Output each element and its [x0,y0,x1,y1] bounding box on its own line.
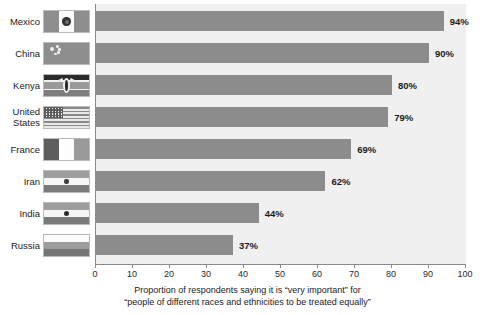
bar [96,43,429,63]
bar-value-label: 37% [239,235,258,255]
flag-star [61,111,62,112]
bar-row: Iran62% [0,165,495,197]
x-axis-tick [280,264,281,268]
bar-chart: Mexico94%China90%Kenya80%UnitedStates79%… [0,0,495,315]
x-axis-tick [354,264,355,268]
flag-star [46,111,47,112]
x-axis-tick [206,264,207,268]
x-axis-tick-label: 10 [127,269,137,279]
x-axis-tick-label: 60 [312,269,322,279]
flag-stripe [44,249,89,256]
flag-emblem [64,179,68,183]
flag-emblem [57,51,59,53]
bar-value-label: 62% [331,171,350,191]
x-axis-tick [391,264,392,268]
category-label: France [0,133,40,165]
category-label-line-1: China [15,48,40,59]
flag-star [55,116,56,117]
flag-star [52,108,53,109]
x-axis-tick [95,264,96,268]
category-label-line-1: India [19,208,40,219]
bar [96,171,325,191]
flag-stripe [44,139,59,160]
x-axis-tick [243,264,244,268]
bar [96,75,392,95]
bar-value-label: 90% [435,43,454,63]
x-axis-tick-label: 20 [164,269,174,279]
bar-row: Russia37% [0,229,495,261]
x-axis-tick-label: 70 [349,269,359,279]
bar-row: UnitedStates79% [0,101,495,133]
flag-emblem [58,48,60,50]
flag-star [52,113,53,114]
bar-value-label: 80% [398,75,417,95]
flag-star [46,116,47,117]
flag-star [49,111,50,112]
flag-stripe [74,11,89,32]
flag-star [46,113,47,114]
category-label: India [0,197,40,229]
x-axis-tick [428,264,429,268]
x-axis-caption-line-2: “people of different races and ethniciti… [0,296,495,308]
flag-emblem [65,20,69,24]
flag-stripe [44,11,59,32]
flag-mexico-icon [43,10,90,33]
x-axis-caption-line-1: Proportion of respondents saying it is “… [0,284,495,296]
bar-row: France69% [0,133,495,165]
category-label-line-1: France [10,144,40,155]
flag-star [52,111,53,112]
bar [96,235,233,255]
x-axis-tick-label: 50 [275,269,285,279]
x-axis-tick-label: 40 [238,269,248,279]
category-label: Kenya [0,69,40,101]
flag-star [55,108,56,109]
x-axis-tick-label: 80 [386,269,396,279]
category-label: Mexico [0,5,40,37]
bar [96,139,351,159]
x-axis-tick-label: 100 [457,269,472,279]
category-label: China [0,37,40,69]
flag-stripe [44,217,89,224]
x-axis-tick [465,264,466,268]
x-axis-caption: Proportion of respondents saying it is “… [0,284,495,308]
flag-star [55,111,56,112]
flag-stripe [44,235,89,242]
flag-stripe [74,139,89,160]
bar-row: Mexico94% [0,5,495,37]
flag-russia-icon [43,234,90,257]
flag-stripe [59,139,74,160]
x-axis-tick [132,264,133,268]
flag-star [58,108,59,109]
category-label: UnitedStates [0,101,40,133]
flag-stripe [44,185,89,192]
category-label-line-1: Kenya [13,80,40,91]
x-axis-tick-label: 0 [92,269,97,279]
x-axis-tick [169,264,170,268]
category-label-line-2: States [13,117,40,128]
flag-star [52,116,53,117]
flag-stripe [44,121,89,123]
flag-star [49,108,50,109]
flag-united-states-icon [43,106,90,129]
flag-iran-icon [43,170,90,193]
flag-france-icon [43,138,90,161]
bar [96,11,444,31]
flag-emblem [54,53,56,55]
flag-star [58,116,59,117]
bar [96,203,259,223]
bar-value-label: 79% [394,107,413,127]
bar [96,107,388,127]
category-label-line-1: Iran [24,176,40,187]
bar-row: China90% [0,37,495,69]
flag-emblem [56,45,58,47]
category-label-line-1: United [13,106,40,117]
flag-stripe [44,171,89,178]
flag-china-icon [43,42,90,65]
bar-row: India44% [0,197,495,229]
flag-star [55,113,56,114]
flag-star [61,108,62,109]
flag-stripe [44,242,89,249]
flag-india-icon [43,202,90,225]
flag-star [49,113,50,114]
flag-star [58,113,59,114]
